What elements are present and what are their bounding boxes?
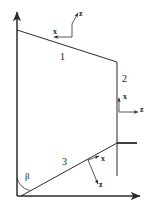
frame-top: [54, 13, 78, 37]
edge-1-top-slanted: [17, 30, 117, 62]
edge-label-1: 1: [60, 52, 65, 62]
frame-top-z-label: z: [79, 10, 83, 18]
frame-right-x-label: x: [123, 93, 127, 101]
diagram-canvas: 1 2 3 x z x z x z β: [0, 0, 155, 212]
frame-right-z-label: z: [140, 106, 144, 114]
edge-label-2: 2: [122, 74, 127, 84]
frame-right: [119, 98, 138, 112]
edge-label-3: 3: [62, 157, 67, 167]
frame-top-x-label: x: [53, 28, 57, 36]
frame-lower-x-label: x: [101, 155, 105, 163]
diagram-vector-layer: [0, 0, 155, 212]
angle-beta-label: β: [25, 172, 30, 181]
frame-lower-z-label: z: [99, 181, 103, 189]
frame-lower: [88, 156, 99, 184]
